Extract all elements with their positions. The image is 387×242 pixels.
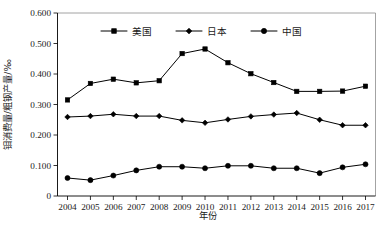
data-point-美国-2012 [249, 71, 253, 75]
x-tick-label-2008: 2008 [150, 202, 169, 212]
data-point-美国-2016 [340, 89, 344, 93]
data-point-中国-2016 [340, 165, 345, 170]
legend-marker-circle [261, 28, 266, 33]
x-tick-label-2004: 2004 [58, 202, 77, 212]
data-point-美国-2006 [111, 77, 115, 81]
y-tick-label-5: 0.500 [30, 39, 51, 49]
line-chart: 0 0.100 0.200 0.300 0.400 0.500 0.600 钼消… [0, 0, 387, 242]
y-tick-label-0: 0 [46, 191, 51, 201]
y-tick-label-2: 0.200 [30, 130, 51, 140]
data-point-中国-2007 [134, 168, 139, 173]
data-point-美国-2009 [180, 51, 184, 55]
data-point-中国-2011 [225, 163, 230, 168]
data-point-美国-2015 [317, 89, 321, 93]
data-point-美国-2017 [363, 84, 367, 88]
data-point-中国-2015 [317, 171, 322, 176]
data-point-美国-2005 [88, 81, 92, 85]
data-point-中国-2010 [203, 166, 208, 171]
data-point-美国-2010 [203, 47, 207, 51]
figure-container: 0 0.100 0.200 0.300 0.400 0.500 0.600 钼消… [0, 0, 387, 242]
data-point-美国-2008 [157, 79, 161, 83]
data-point-美国-2004 [65, 98, 69, 102]
plot-frame [58, 13, 376, 196]
legend-marker-square [112, 29, 117, 34]
y-tick-label-1: 0.100 [30, 161, 51, 171]
data-point-中国-2009 [180, 164, 185, 169]
x-tick-label-2013: 2013 [265, 202, 284, 212]
data-point-中国-2008 [157, 164, 162, 169]
data-point-美国-2013 [272, 80, 276, 84]
data-point-中国-2006 [111, 173, 116, 178]
x-tick-label-2016: 2016 [333, 202, 352, 212]
x-tick-label-2006: 2006 [104, 202, 123, 212]
y-axis-title: 钼消费量/粗钢产量/‰ [2, 59, 13, 150]
x-tick-label-2017: 2017 [356, 202, 375, 212]
data-point-中国-2014 [294, 166, 299, 171]
x-tick-label-2011: 2011 [219, 202, 237, 212]
x-tick-label-2014: 2014 [288, 202, 307, 212]
y-axis-title-text: 钼消费量/粗钢产量/‰ [2, 59, 13, 150]
x-axis-ticks [68, 196, 366, 200]
data-point-中国-2005 [88, 178, 93, 183]
x-tick-label-2009: 2009 [173, 202, 192, 212]
data-point-美国-2014 [295, 89, 299, 93]
x-tick-label-2015: 2015 [310, 202, 329, 212]
legend-label-美国: 美国 [132, 26, 152, 37]
data-point-中国-2004 [65, 175, 70, 180]
data-point-美国-2011 [226, 61, 230, 65]
x-tick-label-2005: 2005 [81, 202, 100, 212]
data-point-中国-2013 [271, 166, 276, 171]
legend-label-日本: 日本 [207, 26, 227, 37]
x-axis-title-text: 年份 [199, 210, 218, 221]
x-tick-label-2012: 2012 [242, 202, 261, 212]
data-point-中国-2012 [248, 163, 253, 168]
data-point-中国-2017 [363, 162, 368, 167]
legend-label-中国: 中国 [282, 26, 302, 37]
x-tick-label-2007: 2007 [127, 202, 146, 212]
y-tick-label-4: 0.400 [30, 69, 51, 79]
y-tick-label-6: 0.600 [30, 8, 51, 18]
y-tick-label-3: 0.300 [30, 100, 51, 110]
data-point-美国-2007 [134, 81, 138, 85]
y-axis: 0 0.100 0.200 0.300 0.400 0.500 0.600 [30, 8, 57, 201]
